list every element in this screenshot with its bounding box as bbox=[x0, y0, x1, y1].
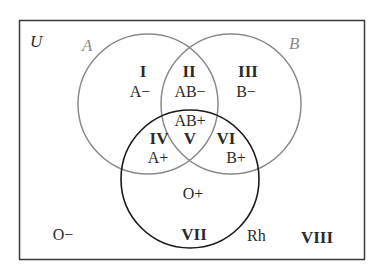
set-a-label: A bbox=[81, 36, 93, 55]
region-vi-numeral: VI bbox=[217, 129, 236, 148]
region-vii-numeral: VII bbox=[181, 225, 207, 244]
venn-diagram: U A B Rh I A− II AB− III B− AB+ V IV A+ … bbox=[0, 0, 388, 277]
universe-label: U bbox=[30, 32, 44, 51]
region-ii-numeral: II bbox=[182, 62, 196, 81]
region-v-numeral: V bbox=[184, 129, 197, 148]
region-v-type: AB+ bbox=[174, 112, 205, 129]
region-viii-type: O− bbox=[53, 226, 74, 243]
region-i-type: A− bbox=[130, 83, 151, 100]
region-viii-numeral: VIII bbox=[301, 228, 334, 247]
set-rh-label: Rh bbox=[247, 227, 266, 244]
region-i-numeral: I bbox=[140, 62, 147, 81]
region-iv-type: A+ bbox=[148, 149, 169, 166]
region-vii-type: O+ bbox=[183, 185, 204, 202]
region-iv-numeral: IV bbox=[150, 129, 170, 148]
region-iii-type: B− bbox=[236, 83, 256, 100]
set-b-label: B bbox=[289, 34, 300, 53]
region-iii-numeral: III bbox=[238, 62, 258, 81]
region-vi-type: B+ bbox=[226, 149, 246, 166]
region-ii-type: AB− bbox=[174, 83, 205, 100]
